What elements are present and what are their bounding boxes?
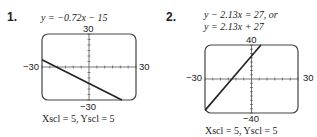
- graph-canvas: [0, 0, 317, 137]
